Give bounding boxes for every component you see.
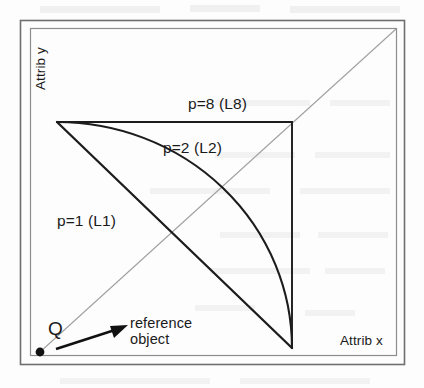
- contour-label-l1: p=1 (L1): [57, 212, 116, 229]
- x-axis-label: Attrib x: [340, 333, 383, 348]
- reference-object-label-line1: reference: [130, 315, 192, 331]
- reference-object-label-line2: object: [130, 331, 169, 347]
- contour-label-l8: p=8 (L8): [188, 95, 247, 112]
- contour-label-l2: p=2 (L2): [163, 139, 222, 156]
- figure-container: p=8 (L8) p=2 (L2) p=1 (L1) Q referenceob…: [0, 0, 424, 388]
- reference-object-arrow: [56, 325, 128, 349]
- figure-vector-canvas: [0, 0, 424, 388]
- query-point-marker: [36, 348, 45, 357]
- query-point-label: Q: [48, 318, 63, 339]
- reference-object-label: referenceobject: [130, 315, 192, 347]
- y-axis-label: Attrib y: [33, 47, 48, 90]
- scan-artifact-layer: [40, 5, 400, 384]
